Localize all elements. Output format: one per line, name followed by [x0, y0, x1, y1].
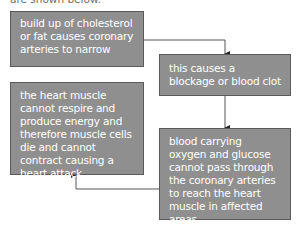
flow-box-blockage: this causes a blockage or blood clot [159, 54, 291, 96]
flow-box-text: the heart muscle cannot respire and prod… [20, 89, 132, 179]
flow-box-heart-attack: the heart muscle cannot respire and prod… [10, 82, 144, 175]
arrow-box1-to-box2 [143, 40, 225, 54]
flow-box-cholesterol-buildup: build up of cholesterol or fat causes co… [10, 11, 144, 67]
flow-box-text: blood carrying oxygen and glucose cannot… [169, 135, 276, 225]
arrow-box3-to-box4 [76, 175, 159, 189]
flow-box-text: this causes a blockage or blood clot [169, 62, 281, 87]
flow-box-text: build up of cholesterol or fat causes co… [20, 17, 133, 55]
flow-box-blood-cannot-pass: blood carrying oxygen and glucose cannot… [159, 128, 291, 220]
